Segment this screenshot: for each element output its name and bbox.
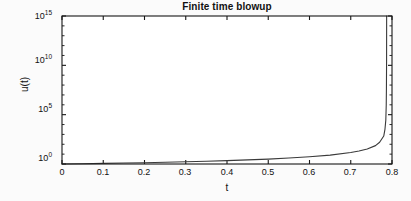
plot-background <box>62 16 392 164</box>
chart-figure: Finite time blowup u(t) t 1015 1010 105 … <box>0 0 411 201</box>
chart-plot-area <box>0 0 411 201</box>
